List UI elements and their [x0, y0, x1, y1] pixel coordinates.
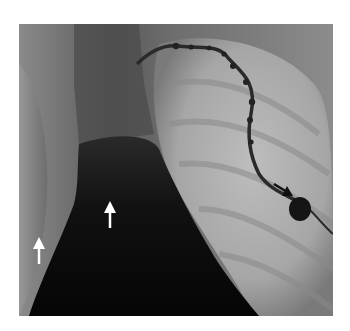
implanted-device — [289, 197, 311, 221]
radiograph-image — [19, 24, 333, 316]
radiograph-canvas — [19, 24, 333, 316]
